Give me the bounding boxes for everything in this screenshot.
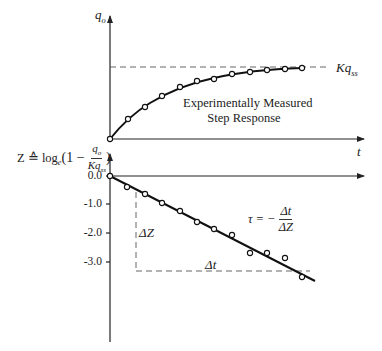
tick-label-1: -1.0 — [72, 198, 102, 210]
delta-z-label: ΔZ — [139, 226, 154, 239]
tick-label-3: -3.0 — [72, 256, 102, 268]
data-point — [282, 255, 287, 260]
data-point — [211, 226, 216, 231]
data-point — [142, 104, 147, 109]
data-point — [194, 219, 199, 224]
delta-t-label: Δt — [205, 258, 216, 271]
upper-y-axis-label: qo — [95, 8, 106, 24]
curve-caption: Experimentally Measured Step Response — [183, 97, 305, 124]
data-point — [177, 208, 182, 213]
asymptote-label: Kqss — [336, 61, 358, 77]
data-point — [247, 69, 252, 74]
data-point — [264, 67, 269, 72]
data-point — [299, 65, 304, 70]
data-point — [229, 71, 234, 76]
data-point — [299, 274, 304, 279]
step-response-diagram — [0, 0, 382, 351]
data-point — [247, 250, 252, 255]
tick-label-0: 0.0 — [72, 170, 102, 182]
data-point — [177, 84, 182, 89]
tick-label-2: -2.0 — [72, 227, 102, 239]
data-point — [159, 200, 164, 205]
lower-axes — [106, 154, 364, 342]
data-point — [229, 232, 234, 237]
data-point — [264, 250, 269, 255]
data-point — [107, 136, 112, 141]
tau-formula: τ = − Δt ΔZ — [248, 205, 293, 233]
data-point — [142, 191, 147, 196]
data-point — [159, 93, 164, 98]
data-point — [124, 184, 129, 189]
data-point — [194, 78, 199, 83]
x-axis-label: t — [357, 145, 361, 158]
data-point — [282, 66, 287, 71]
data-point — [125, 116, 130, 121]
data-point — [211, 76, 216, 81]
